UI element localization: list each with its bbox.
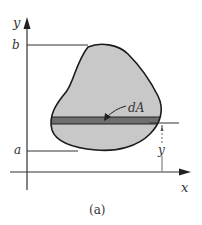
lower-bound-label: a	[14, 143, 21, 157]
y-axis	[24, 17, 31, 190]
upper-bound-label: b	[12, 38, 20, 52]
x-axis-label: x	[181, 180, 189, 195]
x-axis-arrow-icon	[179, 169, 191, 176]
x-axis	[10, 169, 191, 176]
y-axis-arrow-icon	[24, 17, 31, 29]
area-element-diagram: y x b a dA y (a)	[0, 0, 202, 225]
y-dimension-label: y	[157, 143, 165, 157]
element-label: dA	[128, 101, 145, 115]
dimension-arrow-up-icon	[161, 125, 164, 131]
region-shape	[40, 44, 180, 150]
figure-caption: (a)	[89, 203, 106, 217]
y-axis-label: y	[12, 15, 21, 30]
